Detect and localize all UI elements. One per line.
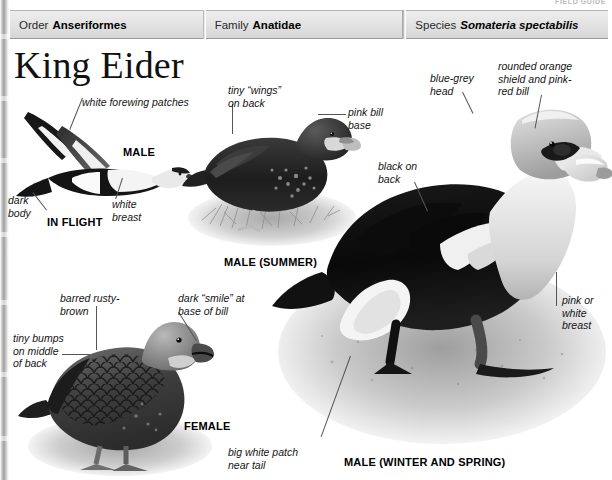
taxonomy-value-species: Somateria spectabilis [460,19,578,31]
label-barred-rusty-brown: barred rusty- brown [60,292,120,317]
caption-male-summer: MALE (SUMMER) [224,256,317,269]
label-dark-body: dark body [8,194,31,219]
taxonomy-cell-order: Order Anseriformes [10,10,203,39]
taxonomy-key-family: Family [215,19,249,31]
page-edge-strip [0,0,9,480]
taxonomy-header-bar: Order Anseriformes Family Anatidae Speci… [10,10,608,39]
cropped-running-head: FIELD GUIDE [555,0,606,4]
caption-male-winter-spring: MALE (WINTER AND SPRING) [344,456,505,469]
taxonomy-value-family: Anatidae [253,19,302,31]
leader-pink-white-breast [556,272,557,306]
label-big-white-patch: big white patch near tail [228,446,298,471]
label-blue-grey-head: blue-grey head [430,72,474,97]
taxonomy-cell-species: Species Somateria spectabilis [405,10,608,39]
taxonomy-cell-family: Family Anatidae [205,10,404,39]
page-title: King Eider [14,44,184,86]
field-guide-page: FIELD GUIDE Order Anseriformes Family An… [0,0,612,480]
label-pink-bill-base: pink bill base [348,106,383,131]
label-white-forewing-patches: white forewing patches [82,96,189,109]
label-white-breast: white breast [112,198,141,223]
caption-male-in-flight: MALE [123,146,155,159]
label-dark-smile: dark “smile” at base of bill [178,292,245,317]
label-tiny-wings-on-back: tiny “wings” on back [228,84,281,109]
taxonomy-key-order: Order [19,19,48,31]
label-tiny-bumps: tiny bumps on middle of back [13,332,64,370]
taxonomy-value-order: Anseriformes [52,19,126,31]
leader-tiny-bumps [62,354,90,355]
label-pink-or-white-breast: pink or white breast [562,294,594,332]
label-shield-and-bill: rounded orange shield and pink- red bill [498,60,572,98]
caption-in-flight: IN FLIGHT [47,216,103,229]
in-flight-male-illustration [12,108,192,213]
caption-female: FEMALE [184,420,230,433]
label-black-on-back: black on back [378,160,417,185]
taxonomy-key-species: Species [415,19,456,31]
leader-pink-bill [318,114,346,115]
